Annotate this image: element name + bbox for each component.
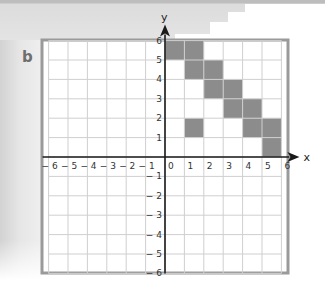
x-tick-label: 6 — [284, 161, 290, 171]
shaded-cell — [184, 41, 203, 60]
shaded-cell — [165, 41, 184, 60]
y-tick-label: − 1 — [146, 171, 162, 181]
y-tick-label: 3 — [156, 94, 162, 104]
x-tick-label: 5 — [265, 161, 271, 171]
x-tick-label: 0 — [168, 161, 174, 171]
shaded-cell — [204, 79, 223, 98]
shaded-cell — [243, 99, 262, 118]
y-tick-label: 1 — [156, 133, 162, 143]
y-tick-label: − 4 — [146, 230, 162, 240]
x-tick-label: 3 — [226, 161, 232, 171]
x-tick-label: − 1 — [139, 161, 155, 171]
x-tick-label: − 4 — [80, 161, 96, 171]
x-tick-label: − 2 — [119, 161, 135, 171]
y-tick-label: − 2 — [146, 191, 162, 201]
y-tick-label: 5 — [156, 55, 162, 65]
shaded-cell — [243, 118, 262, 137]
y-tick-label: − 3 — [146, 210, 162, 220]
x-tick-label: − 6 — [42, 161, 58, 171]
x-tick-label: − 3 — [100, 161, 116, 171]
shaded-cell — [184, 60, 203, 79]
coordinate-grid: xy− 6− 5− 4− 3− 2− 10123456654321− 1− 2−… — [0, 0, 325, 293]
x-tick-label: − 5 — [61, 161, 77, 171]
x-tick-label: 2 — [207, 161, 213, 171]
y-tick-label: − 6 — [146, 268, 162, 278]
shaded-cell — [204, 60, 223, 79]
y-tick-label: − 5 — [146, 249, 162, 259]
shaded-cell — [223, 79, 242, 98]
y-axis-label: y — [161, 11, 168, 24]
x-tick-label: 1 — [187, 161, 193, 171]
x-tick-label: 4 — [246, 161, 252, 171]
y-tick-label: 2 — [156, 113, 162, 123]
x-axis-label: x — [303, 151, 310, 164]
shaded-cell — [262, 118, 281, 137]
shaded-cell — [184, 118, 203, 137]
y-tick-label: 6 — [156, 36, 162, 46]
shaded-cell — [262, 138, 281, 157]
shaded-cell — [223, 99, 242, 118]
y-tick-label: 4 — [156, 74, 162, 84]
